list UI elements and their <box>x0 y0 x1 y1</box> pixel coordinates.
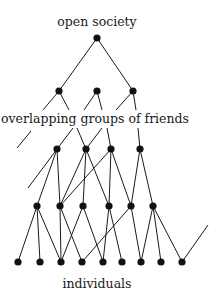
node-individuals <box>36 258 43 265</box>
edge-line <box>60 206 82 262</box>
node-groups_lower <box>107 145 114 152</box>
edge-line <box>109 149 111 206</box>
edge-line <box>182 225 208 262</box>
node-groups_lower <box>82 145 89 152</box>
node-individuals <box>118 258 125 265</box>
edge-line <box>61 206 83 262</box>
edge-line <box>86 128 102 149</box>
node-groups_upper <box>129 87 136 94</box>
node-friends <box>56 202 63 209</box>
edge-line <box>18 206 37 262</box>
label-individuals: individuals <box>61 277 132 292</box>
node-groups_lower <box>136 145 143 152</box>
node-friends <box>33 202 40 209</box>
edge-line <box>37 149 57 206</box>
edge-line <box>59 38 97 91</box>
node-individuals <box>14 258 21 265</box>
node-groups_lower <box>53 145 60 152</box>
edge-line <box>60 206 61 262</box>
edge-line <box>141 206 153 262</box>
edge-line <box>131 149 140 206</box>
edge-line <box>57 128 73 149</box>
graph-svg <box>0 0 221 297</box>
edge-line <box>86 149 109 206</box>
node-friends <box>105 202 112 209</box>
node-individuals <box>157 258 164 265</box>
edge-line <box>37 206 40 262</box>
node-individuals <box>178 258 185 265</box>
node-groups_upper <box>93 87 100 94</box>
edge-line <box>60 149 86 206</box>
edge-line <box>140 149 153 206</box>
node-root <box>93 34 100 41</box>
edge-line <box>109 206 122 262</box>
edge-line <box>57 149 60 206</box>
edge-line <box>37 206 61 262</box>
node-individuals <box>137 258 144 265</box>
edge-line <box>111 149 131 206</box>
node-individuals <box>99 258 106 265</box>
edge-line <box>116 91 133 110</box>
node-friends <box>149 202 156 209</box>
nodes-layer <box>14 34 185 265</box>
node-individuals <box>78 258 85 265</box>
edge-line <box>28 149 57 188</box>
edge-line <box>131 206 141 262</box>
edge-line <box>83 206 103 262</box>
edge-line <box>97 38 133 91</box>
edge-line <box>43 91 59 110</box>
node-groups_upper <box>55 87 62 94</box>
node-friends <box>127 202 134 209</box>
network-diagram: open society overlapping groups of frien… <box>0 0 221 297</box>
edge-line <box>17 131 31 148</box>
node-friends <box>79 202 86 209</box>
label-overlapping-groups: overlapping groups of friends <box>0 112 190 127</box>
edge-line <box>82 206 131 262</box>
node-individuals <box>57 258 64 265</box>
label-open-society: open society <box>56 15 137 30</box>
